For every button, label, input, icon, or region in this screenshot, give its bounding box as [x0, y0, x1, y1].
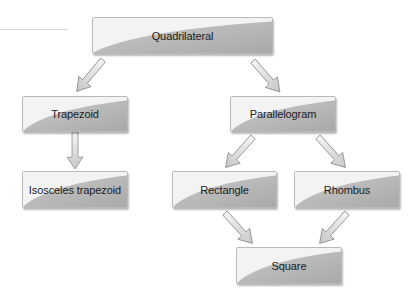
arrow-rhombus-to-square — [314, 208, 353, 249]
arrow-parallelogram-to-rhombus — [312, 132, 351, 173]
diagram-canvas: Quadrilateral Trapezoid Parallelogram — [0, 0, 417, 302]
arrow-rectangle-to-square — [219, 208, 258, 249]
arrow-trapezoid-to-isosceles — [67, 132, 83, 169]
node-rhombus: Rhombus — [294, 171, 400, 208]
node-isosceles-trapezoid: Isosceles trapezoid — [22, 171, 128, 208]
node-label: Parallelogram — [250, 108, 317, 120]
node-trapezoid: Trapezoid — [22, 96, 128, 132]
node-parallelogram: Parallelogram — [230, 96, 336, 132]
node-quadrilateral: Quadrilateral — [92, 17, 273, 54]
node-label: Rhombus — [324, 184, 370, 196]
node-square: Square — [236, 247, 342, 284]
node-label: Isosceles trapezoid — [29, 184, 121, 196]
arrow-parallelogram-to-rectangle — [220, 132, 259, 173]
node-rectangle: Rectangle — [172, 171, 277, 208]
node-label: Trapezoid — [51, 108, 99, 120]
node-label: Square — [272, 260, 307, 272]
node-label: Rectangle — [200, 184, 249, 196]
arrow-quadrilateral-to-trapezoid — [71, 55, 110, 97]
arrow-quadrilateral-to-parallelogram — [247, 56, 286, 97]
node-label: Quadrilateral — [152, 30, 214, 42]
